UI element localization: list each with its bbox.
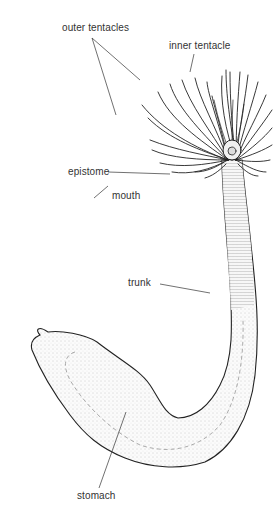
label-trunk: trunk — [128, 277, 151, 288]
label-outer-tentacles: outer tentacles — [62, 22, 129, 33]
leader-epistome — [108, 172, 170, 174]
label-inner-tentacle: inner tentacle — [169, 40, 230, 51]
label-stomach: stomach — [77, 490, 116, 501]
trunk-rings — [222, 160, 254, 310]
leader-inner-tentacle — [190, 54, 194, 72]
leader-mouth — [94, 186, 108, 198]
leader-outer-tentacles-b — [92, 38, 116, 115]
label-mouth: mouth — [112, 190, 140, 201]
label-epistome: epistome — [68, 166, 109, 177]
body — [31, 160, 257, 467]
tentacle-crown — [142, 70, 272, 178]
leader-trunk — [160, 284, 210, 293]
leader-outer-tentacles-a — [92, 38, 140, 80]
phoronid-illustration — [0, 0, 275, 521]
stomach-outline — [31, 160, 257, 467]
